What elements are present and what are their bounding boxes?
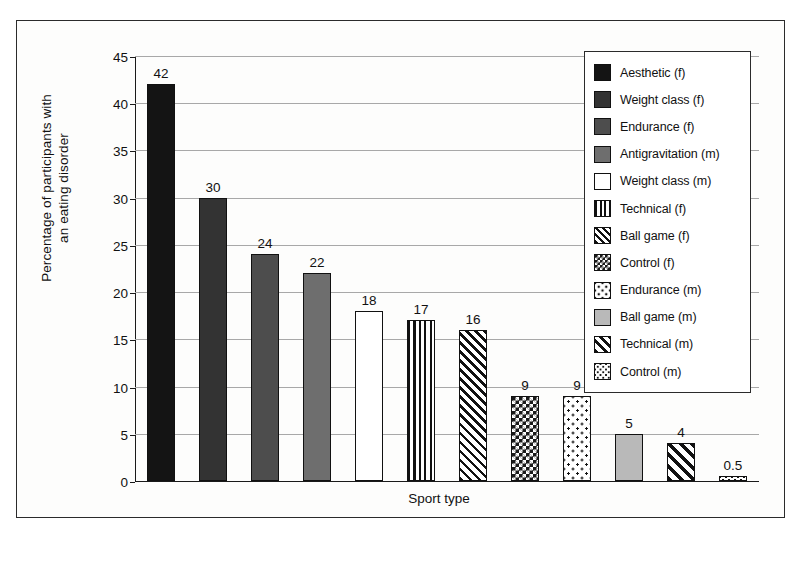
bar[interactable]: 4 (667, 443, 694, 481)
legend-label: Ball game (f) (620, 229, 690, 243)
legend-swatch-icon (594, 254, 611, 271)
legend-item[interactable]: Weight class (m) (594, 168, 741, 195)
legend-label: Technical (m) (620, 337, 693, 351)
legend-label: Ball game (m) (620, 310, 697, 324)
y-tick-label: 45 (113, 50, 128, 65)
legend-item[interactable]: Aesthetic (f) (594, 59, 741, 86)
y-tick-label: 15 (113, 333, 128, 348)
legend-swatch-icon (594, 173, 611, 190)
bar[interactable]: 5 (615, 434, 642, 481)
legend-item[interactable]: Technical (f) (594, 195, 741, 222)
legend-item[interactable]: Control (m) (594, 358, 741, 385)
bar-value-label: 5 (625, 416, 633, 431)
bar[interactable]: 16 (459, 330, 486, 481)
x-axis-line: 0 (135, 481, 759, 482)
y-tick-label: 10 (113, 380, 128, 395)
legend-swatch-icon (594, 282, 611, 299)
legend-item[interactable]: Endurance (f) (594, 113, 741, 140)
legend-swatch-icon (594, 227, 611, 244)
bar-slot: 24 (239, 56, 291, 481)
bar-value-label: 24 (257, 236, 272, 251)
x-axis-title: Sport type (119, 491, 759, 506)
bar-slot: 18 (343, 56, 395, 481)
y-tick-mark (130, 482, 135, 483)
bar-slot: 17 (395, 56, 447, 481)
legend-swatch-icon (594, 91, 611, 108)
bar[interactable]: 24 (251, 254, 278, 481)
bar-value-label: 9 (573, 378, 581, 393)
legend-swatch-icon (594, 118, 611, 135)
bar[interactable]: 9 (511, 396, 538, 481)
legend-item[interactable]: Ball game (m) (594, 304, 741, 331)
legend-item[interactable]: Endurance (m) (594, 277, 741, 304)
bar[interactable]: 18 (355, 311, 382, 481)
bar[interactable]: 9 (563, 396, 590, 481)
bar-value-label: 0.5 (724, 458, 743, 473)
legend-swatch-icon (594, 146, 611, 163)
y-tick-label: 0 (120, 475, 128, 490)
legend-swatch-icon (594, 309, 611, 326)
y-tick-label: 25 (113, 238, 128, 253)
bar-value-label: 30 (205, 180, 220, 195)
legend-label: Aesthetic (f) (620, 66, 685, 80)
chart-legend: Aesthetic (f)Weight class (f)Endurance (… (584, 51, 751, 393)
legend-label: Endurance (m) (620, 283, 701, 297)
legend-item[interactable]: Weight class (f) (594, 86, 741, 113)
bar[interactable]: 30 (199, 198, 226, 481)
bar-slot: 42 (135, 56, 187, 481)
y-axis-title: Percentage of participants with an eatin… (38, 38, 72, 338)
legend-swatch-icon (594, 363, 611, 380)
bar-value-label: 18 (361, 293, 376, 308)
bar-value-label: 9 (521, 378, 529, 393)
legend-swatch-icon (594, 200, 611, 217)
bar-slot: 22 (291, 56, 343, 481)
bar-value-label: 42 (153, 66, 168, 81)
legend-label: Control (f) (620, 256, 674, 270)
legend-item[interactable]: Technical (m) (594, 331, 741, 358)
bar[interactable]: 22 (303, 273, 330, 481)
y-tick-label: 35 (113, 144, 128, 159)
legend-label: Antigravitation (m) (620, 147, 720, 161)
bar-value-label: 16 (465, 312, 480, 327)
legend-label: Control (m) (620, 365, 681, 379)
bar-slot: 9 (499, 56, 551, 481)
legend-swatch-icon (594, 64, 611, 81)
legend-swatch-icon (594, 336, 611, 353)
bar[interactable]: 42 (147, 84, 174, 481)
y-tick-label: 30 (113, 191, 128, 206)
bar[interactable]: 17 (407, 320, 434, 481)
legend-item[interactable]: Antigravitation (m) (594, 141, 741, 168)
bar[interactable]: 0.5 (719, 476, 746, 481)
legend-label: Weight class (m) (620, 174, 711, 188)
bar-value-label: 22 (309, 255, 324, 270)
legend-label: Technical (f) (620, 202, 686, 216)
y-tick-label: 40 (113, 97, 128, 112)
bar-value-label: 4 (677, 425, 685, 440)
bar-slot: 30 (187, 56, 239, 481)
y-tick-label: 20 (113, 286, 128, 301)
legend-item[interactable]: Ball game (f) (594, 222, 741, 249)
bar-value-label: 17 (413, 302, 428, 317)
y-tick-label: 5 (120, 427, 128, 442)
legend-item[interactable]: Control (f) (594, 249, 741, 276)
legend-label: Endurance (f) (620, 120, 694, 134)
figure-frame: Percentage of participants with an eatin… (16, 20, 785, 518)
legend-label: Weight class (f) (620, 93, 704, 107)
bar-slot: 16 (447, 56, 499, 481)
